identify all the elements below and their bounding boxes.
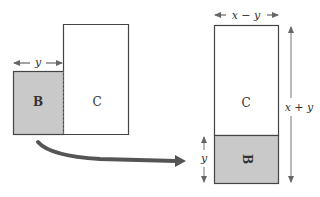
height-label: x + y — [285, 101, 314, 114]
region-b-right-label: B — [240, 154, 254, 164]
top-width-dimension: x − y — [215, 9, 278, 22]
region-c-left-outline — [64, 25, 129, 135]
b-height-dimension: y — [200, 137, 208, 182]
region-b-left-label: B — [33, 95, 43, 109]
region-c-right-label: C — [241, 96, 250, 110]
transform-arrow — [38, 142, 186, 167]
top-width-label: x − y — [232, 9, 261, 22]
region-c-left-label: C — [92, 95, 101, 109]
height-dimension: x + y — [285, 27, 314, 182]
right-figure: C B x − y x + y y — [200, 9, 314, 184]
b-height-label: y — [200, 152, 208, 165]
curved-arrow-icon — [38, 142, 176, 161]
left-width-dimension: y — [14, 56, 62, 69]
diagram-canvas: B C y C B x − y x + y — [0, 0, 320, 197]
left-width-label: y — [34, 56, 42, 69]
curved-arrow-head-icon — [175, 155, 186, 167]
region-c-right — [215, 26, 279, 136]
left-figure: B C y — [14, 25, 129, 135]
